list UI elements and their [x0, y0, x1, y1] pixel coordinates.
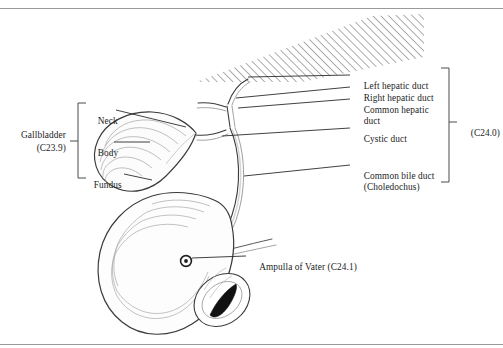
leader-common-bile-duct	[244, 165, 350, 176]
label-fundus: Fundus	[84, 168, 122, 203]
c240-bracket	[441, 68, 457, 182]
cystic-duct	[196, 130, 226, 135]
duodenum	[98, 193, 260, 338]
label-body: Body	[88, 136, 118, 171]
gallbladder-group-code: (C23.9)	[4, 131, 66, 166]
gallbladder-bracket	[70, 103, 86, 178]
anatomy-figure: Gallbladder (C23.9) Neck Body Fundus Lef…	[0, 0, 503, 348]
c240-group-code: (C24.0)	[461, 116, 500, 151]
leader-right-hepatic-duct	[236, 87, 350, 98]
left-hepatic-duct	[228, 79, 248, 104]
label-choledochus: (Choledochus)	[354, 170, 420, 205]
label-ampulla-of-vater: Ampulla of Vater (C24.1)	[250, 250, 357, 285]
common-hepatic-duct	[227, 106, 230, 127]
leader-common-hepatic-duct	[238, 99, 350, 108]
right-leader-lines	[222, 75, 350, 176]
label-cystic-duct: Cystic duct	[354, 122, 407, 157]
leader-cystic-duct	[222, 128, 350, 136]
right-hepatic-duct	[198, 103, 226, 107]
ampulla-marker	[181, 256, 192, 267]
label-neck: Neck	[88, 104, 118, 139]
